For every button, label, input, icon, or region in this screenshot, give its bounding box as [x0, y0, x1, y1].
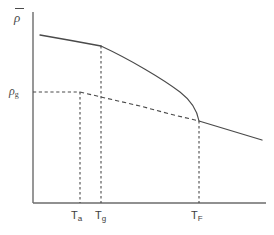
tick-Tg-subscript: g: [102, 214, 106, 223]
y-axis-tick-label-rho-g: ρg: [9, 85, 19, 99]
glass-branch-steep: [101, 46, 199, 121]
tick-TF-base: T: [191, 209, 198, 221]
y-axis-label: ρ: [14, 8, 24, 24]
extrapolated-ideal-glass-line: [80, 92, 199, 121]
tick-Ta-subscript: a: [78, 214, 82, 223]
tick-Tg-base: T: [95, 209, 102, 221]
crystal-branch-lower: [199, 121, 262, 140]
tick-Ta-base: T: [71, 209, 78, 221]
tick-TF-subscript: F: [198, 214, 203, 223]
equilibrium-liquid-branch: [40, 35, 101, 46]
x-axis-tick-label-TF: TF: [191, 210, 203, 223]
density-vs-temperature-figure: ρ ρg Ta Tg TF: [0, 0, 274, 235]
x-axis-tick-label-Tg: Tg: [95, 210, 106, 223]
x-axis-tick-label-Ta: Ta: [71, 210, 82, 223]
y-axis-label-text: ρ: [14, 10, 20, 25]
rho-subscript: g: [15, 90, 19, 99]
plot-canvas: [0, 0, 274, 235]
